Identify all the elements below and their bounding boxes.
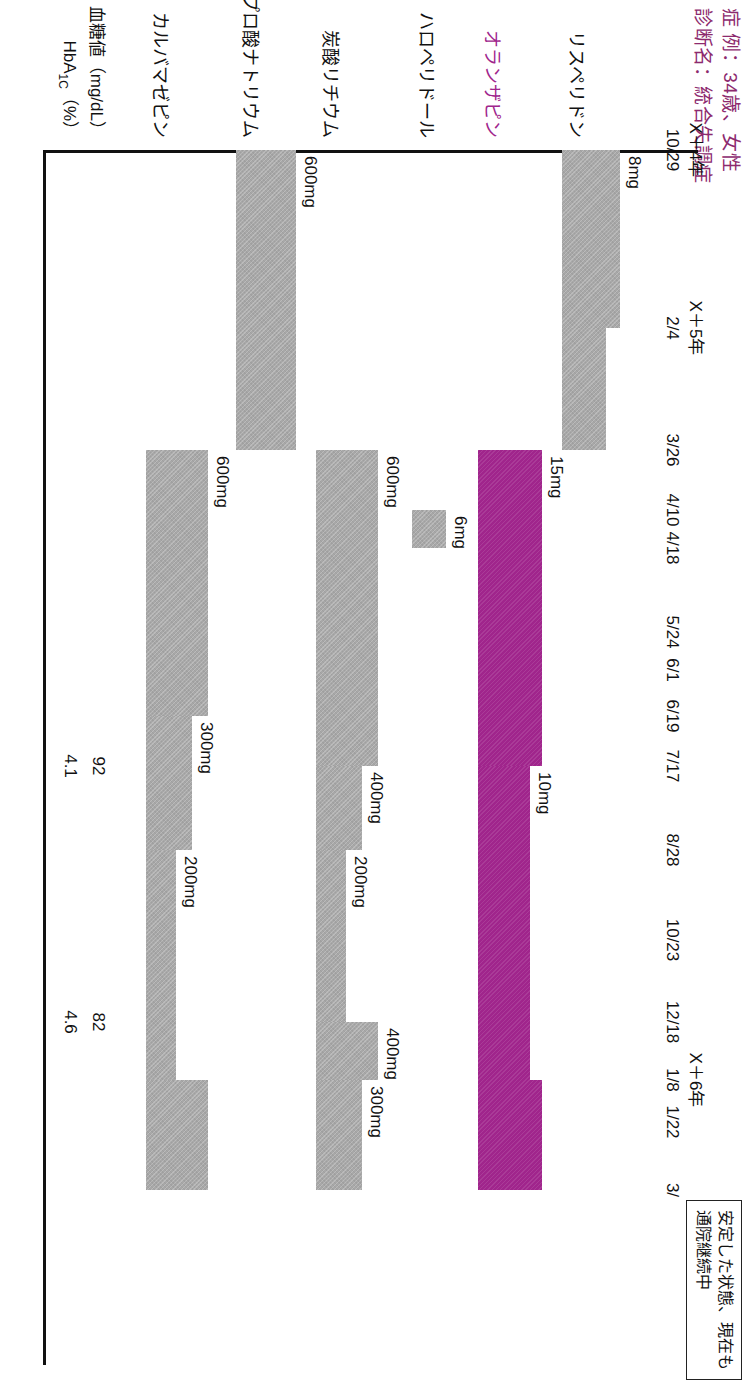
dose-bar bbox=[562, 150, 620, 328]
year-marker: X＋5年 bbox=[685, 301, 710, 356]
date-tick: 5/24 bbox=[662, 615, 682, 648]
year-marker: X＋4年 bbox=[685, 123, 710, 178]
date-tick: 10/23 bbox=[662, 919, 682, 962]
drug-row-label: ハロペリドール bbox=[415, 12, 441, 138]
dose-bar bbox=[478, 766, 530, 1080]
date-tick: 8/28 bbox=[662, 833, 682, 866]
dose-label: 400mg bbox=[382, 1028, 402, 1080]
lab-value: 92 bbox=[88, 757, 108, 776]
date-tick: 10/29 bbox=[662, 129, 682, 172]
dose-bar bbox=[316, 1022, 378, 1080]
dose-label: 300mg bbox=[366, 1086, 386, 1138]
dose-bar bbox=[146, 716, 192, 850]
dose-bar bbox=[316, 766, 362, 850]
plot-area: 10/292/43/264/104/185/246/16/197/178/281… bbox=[46, 150, 646, 1365]
drug-row-label: 炭酸リチウム bbox=[319, 30, 345, 138]
date-tick: 4/10 bbox=[662, 493, 682, 526]
dose-bar bbox=[316, 1080, 362, 1190]
dose-bar bbox=[146, 850, 176, 1080]
figure-rotor: 症 例：34歳、女性 診断名：統合失調症 安定した状態、現在も 通院継続中 10… bbox=[0, 0, 754, 1394]
lab-row-label: HbA1C（%） bbox=[56, 40, 83, 138]
dose-label: 600mg bbox=[212, 456, 232, 508]
date-tick: 6/1 bbox=[662, 658, 682, 682]
year-marker: X＋6年 bbox=[685, 1053, 710, 1108]
drug-row-label: オランザピン bbox=[481, 30, 507, 138]
dose-bar bbox=[316, 850, 346, 1022]
dose-bar bbox=[562, 328, 606, 450]
lab-row-label: 血糖値（mg/dL） bbox=[86, 6, 111, 138]
dose-bar bbox=[316, 450, 378, 766]
date-tick: 1/22 bbox=[662, 1105, 682, 1138]
date-tick: 6/19 bbox=[662, 699, 682, 732]
note-box-line2: 通院継続中 bbox=[693, 1210, 715, 1370]
dose-label: 400mg bbox=[366, 772, 386, 824]
date-tick: 1/8 bbox=[662, 1068, 682, 1092]
dose-label: 6mg bbox=[450, 516, 470, 549]
note-box: 安定した状態、現在も 通院継続中 bbox=[686, 1200, 742, 1380]
dose-label: 8mg bbox=[624, 156, 644, 189]
lab-value: 4.1 bbox=[60, 754, 80, 778]
note-box-line1: 安定した状態、現在も bbox=[714, 1210, 736, 1370]
lab-value: 4.6 bbox=[60, 1010, 80, 1034]
dose-bar bbox=[146, 450, 208, 716]
dose-label: 200mg bbox=[350, 856, 370, 908]
dose-label: 600mg bbox=[382, 456, 402, 508]
horizontal-axis bbox=[44, 150, 47, 1365]
date-tick: 2/4 bbox=[662, 316, 682, 340]
medication-timeline-figure: 症 例：34歳、女性 診断名：統合失調症 安定した状態、現在も 通院継続中 10… bbox=[0, 0, 754, 1394]
dose-label: 10mg bbox=[534, 772, 554, 815]
drug-row-label: リスペリドン bbox=[565, 31, 591, 138]
dose-label: 600mg bbox=[300, 156, 320, 208]
dose-bar bbox=[478, 1080, 542, 1190]
drug-row-label: カルバマゼピン bbox=[149, 12, 175, 138]
dose-bar bbox=[146, 1080, 208, 1190]
date-tick: 4/18 bbox=[662, 531, 682, 564]
date-tick: 3/ bbox=[662, 1183, 682, 1197]
date-tick: 3/26 bbox=[662, 433, 682, 466]
dose-bar bbox=[412, 510, 446, 548]
case-header-line1: 症 例：34歳、女性 bbox=[716, 8, 744, 184]
dose-bar bbox=[478, 450, 542, 766]
date-tick: 7/17 bbox=[662, 749, 682, 782]
dose-label: 15mg bbox=[546, 456, 566, 499]
lab-value: 82 bbox=[88, 1013, 108, 1032]
date-tick: 12/18 bbox=[662, 1001, 682, 1044]
dose-label: 300mg bbox=[196, 722, 216, 774]
dose-bar bbox=[236, 150, 296, 450]
dose-label: 200mg bbox=[180, 856, 200, 908]
drug-row-label: バルプロ酸ナトリウム bbox=[239, 0, 265, 138]
